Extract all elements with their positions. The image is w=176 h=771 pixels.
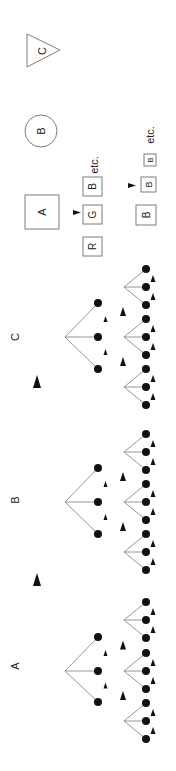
leaf-node [142, 699, 150, 707]
arrow-icon [151, 490, 156, 497]
tree-node [94, 464, 102, 472]
leaf-node [142, 498, 150, 506]
leaf-node [142, 717, 150, 725]
tree-node [94, 667, 102, 675]
arrow-icon [151, 540, 156, 547]
leaf-node [142, 301, 150, 309]
arrow-icon [151, 558, 156, 565]
tree-diagram: CBA C B A R G B etc. [0, 0, 176, 771]
leaf-node [142, 466, 150, 474]
leaf-node [142, 649, 150, 657]
tree-node [94, 299, 102, 307]
shape-triangle-c: C [27, 34, 60, 67]
leaf-node [142, 548, 150, 556]
arrow-icon [128, 183, 136, 188]
leaf-node [142, 516, 150, 524]
shape-triangle-label: C [36, 47, 48, 55]
tree-node [94, 698, 102, 706]
arrow-icon [151, 626, 156, 633]
arrow-icon [120, 522, 126, 531]
arrow-icon [104, 481, 108, 487]
leaf-node [142, 351, 150, 359]
shape-circle-label: B [35, 127, 47, 134]
leaf-node [142, 480, 150, 488]
arrow-icon [151, 677, 156, 684]
arrow-icon [151, 325, 156, 332]
group-label: A [9, 662, 21, 670]
group-label: B [9, 496, 21, 503]
leaf-node [142, 430, 150, 438]
group-arrow-icon [33, 573, 41, 586]
arrow-icon [151, 727, 156, 734]
arrow-icon [104, 514, 108, 520]
tree-node [94, 333, 102, 341]
legend-row-bbb: B B B etc. [136, 126, 156, 225]
box-b2-label: B [144, 181, 154, 187]
box-b3-label: B [146, 157, 155, 162]
leaf-node [142, 667, 150, 675]
shape-square-label: A [36, 208, 48, 216]
arrow-icon [73, 210, 81, 215]
box-b-label: B [87, 183, 98, 190]
tree-group-a: A [9, 598, 156, 743]
leaf-node [142, 598, 150, 606]
box-b1-label: B [141, 211, 152, 218]
legend-row-rgb: R G B etc. [83, 156, 102, 256]
leaf-node [142, 735, 150, 743]
arrow-icon [120, 691, 126, 700]
arrow-icon [151, 343, 156, 350]
leaf-node [142, 448, 150, 456]
etc-label: etc. [144, 126, 156, 144]
group-label: C [9, 333, 21, 341]
arrow-icon [151, 709, 156, 716]
arrow-icon [151, 293, 156, 300]
leaf-node [142, 333, 150, 341]
shape-square-a: A [25, 195, 59, 229]
arrow-icon [151, 508, 156, 515]
leaf-node [142, 265, 150, 273]
arrow-icon [104, 349, 108, 355]
leaf-node [142, 685, 150, 693]
leaf-node [142, 383, 150, 391]
tree-node [94, 365, 102, 373]
arrow-icon [151, 275, 156, 282]
tree-node [94, 530, 102, 538]
arrow-icon [120, 307, 126, 316]
arrow-icon [151, 608, 156, 615]
tree-groups: CBA [9, 265, 156, 743]
box-g-label: G [87, 210, 98, 218]
box-r-label: R [87, 243, 98, 250]
arrow-icon [151, 659, 156, 666]
legend-panel: C B A R G B etc. B B [25, 34, 156, 256]
arrow-icon [151, 458, 156, 465]
leaf-node [142, 566, 150, 574]
arrow-icon [104, 683, 108, 689]
etc-label: etc. [88, 156, 100, 174]
leaf-node [142, 616, 150, 624]
tree-group-c: C [9, 265, 156, 409]
arrow-icon [151, 393, 156, 400]
arrow-icon [120, 641, 126, 650]
arrow-icon [120, 472, 126, 481]
group-arrow-icon [33, 375, 41, 388]
arrow-icon [104, 316, 108, 322]
shape-circle-b: B [25, 115, 57, 147]
leaf-node [142, 283, 150, 291]
leaf-node [142, 634, 150, 642]
tree-group-b: B [9, 430, 156, 574]
arrow-icon [104, 650, 108, 656]
leaf-node [142, 365, 150, 373]
tree-node [94, 633, 102, 641]
leaf-node [142, 315, 150, 323]
leaf-node [142, 401, 150, 409]
arrow-icon [120, 357, 126, 366]
tree-node [94, 498, 102, 506]
arrow-icon [151, 440, 156, 447]
arrow-icon [151, 375, 156, 382]
leaf-node [142, 530, 150, 538]
